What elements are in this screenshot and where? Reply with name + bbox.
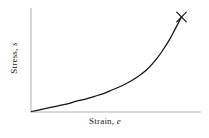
- fracture-point-marker: [177, 12, 187, 22]
- stress-strain-figure: Stress, s Strain, e: [0, 0, 209, 138]
- stress-strain-curve: [32, 17, 182, 112]
- x-axis-label: Strain, e: [57, 116, 153, 126]
- x-axis-label-text: Strain,: [89, 116, 114, 126]
- x-axis-label-symbol: e: [117, 116, 121, 126]
- y-axis-label-symbol: s: [9, 42, 19, 46]
- y-axis-label-text: Stress,: [9, 49, 19, 74]
- y-axis-label: Stress, s: [9, 31, 19, 85]
